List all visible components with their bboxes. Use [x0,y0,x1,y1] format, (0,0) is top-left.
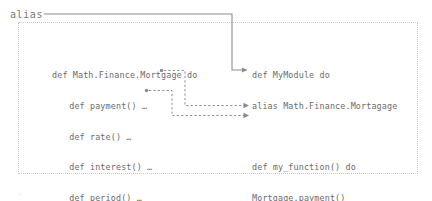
diagram-canvas: alias def Math.Finance.Mortgage do def p… [0,0,432,201]
alias-connector [44,14,247,73]
payment-origin-dot [160,69,163,72]
interest-origin-dot [145,89,148,92]
payment-connector [160,69,249,109]
interest-connector [145,89,249,119]
bottom-tick-mark: . [18,188,23,197]
connector-overlay [0,0,432,201]
